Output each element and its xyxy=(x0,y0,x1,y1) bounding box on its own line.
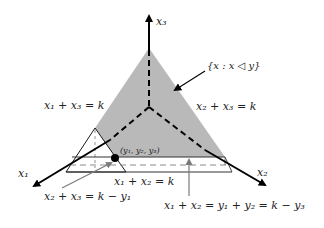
plane-23-label: x₂ + x₃ = k xyxy=(196,101,256,113)
x2-axis-label: x₂ xyxy=(257,167,268,179)
region-pointer-arrow xyxy=(175,71,205,90)
shift-12-label: x₁ + x₂ = y₁ + y₂ = k − y₃ xyxy=(164,200,305,212)
region-label: {x : x ◁ y} xyxy=(207,60,260,72)
shift-23-label: x₂ + x₃ = k − y₁ xyxy=(44,191,131,203)
plane-13-label: x₁ + x₃ = k xyxy=(44,100,104,112)
x3-axis-label: x₃ xyxy=(156,16,167,28)
x2-axis xyxy=(205,150,265,185)
point-label: (y₁, y₂, y₃) xyxy=(120,146,160,155)
point-y xyxy=(111,154,119,162)
plane-12-label: x₁ + x₂ = k xyxy=(114,176,174,188)
x1-axis-label: x₁ xyxy=(18,168,29,180)
